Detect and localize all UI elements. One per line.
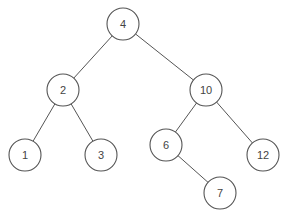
edge-10-6 — [175, 103, 196, 132]
edge-6-7 — [178, 156, 208, 183]
node-label: 4 — [120, 18, 126, 30]
node-label: 3 — [98, 149, 104, 161]
tree-node-12: 12 — [247, 139, 279, 171]
tree-node-2: 2 — [47, 74, 79, 106]
nodes: 4210136127 — [9, 8, 279, 209]
node-label: 6 — [163, 139, 169, 151]
tree-node-6: 6 — [150, 129, 182, 161]
tree-node-10: 10 — [190, 74, 222, 106]
tree-node-1: 1 — [9, 139, 41, 171]
edge-2-3 — [71, 104, 93, 141]
edges — [33, 34, 252, 182]
edge-4-10 — [136, 34, 194, 80]
edge-4-2 — [74, 36, 112, 78]
node-label: 7 — [217, 187, 223, 199]
edge-2-1 — [33, 104, 55, 141]
node-label: 2 — [60, 84, 66, 96]
tree-node-7: 7 — [204, 177, 236, 209]
tree-node-4: 4 — [107, 8, 139, 40]
edge-10-12 — [217, 102, 253, 143]
node-label: 12 — [257, 149, 269, 161]
tree-diagram: 4210136127 — [0, 0, 286, 220]
node-label: 10 — [200, 84, 212, 96]
tree-node-3: 3 — [85, 139, 117, 171]
node-label: 1 — [22, 149, 28, 161]
